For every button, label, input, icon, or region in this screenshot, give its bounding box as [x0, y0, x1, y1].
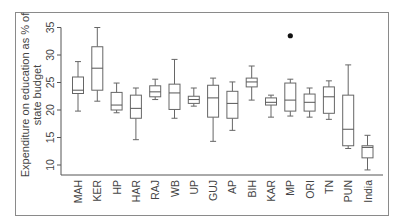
y-tick-label: 30 — [44, 49, 56, 61]
y-tick-label: 15 — [44, 132, 56, 144]
box-ap — [227, 82, 238, 130]
iqr-box — [343, 95, 354, 146]
x-category-label: AP — [226, 180, 238, 194]
x-axis: MAHKERHPHARRAJWBUPGUJAPBIHKARMPORITNPUNI… — [61, 175, 383, 203]
iqr-box — [246, 78, 257, 87]
iqr-box — [73, 77, 84, 94]
x-category-label: MAH — [72, 180, 84, 203]
x-category-label: RAJ — [149, 180, 161, 200]
box-plot-chart: Expenditure on education as % of state b… — [0, 0, 406, 223]
x-category-label: PUN — [342, 180, 354, 202]
y-axis-title-line-1: Expenditure on education as % of — [19, 12, 31, 177]
iqr-box — [227, 91, 238, 118]
outlier-point — [288, 33, 293, 38]
iqr-box — [130, 95, 141, 118]
y-tick-label: 20 — [44, 104, 56, 116]
x-category-label: HP — [111, 180, 123, 195]
box-tn — [323, 81, 334, 120]
iqr-box — [150, 86, 161, 97]
iqr-box — [323, 87, 334, 113]
y-axis-title-line-2: state budget — [31, 65, 43, 126]
box-har — [130, 88, 141, 140]
x-category-label: GUJ — [207, 180, 219, 201]
x-category-label: UP — [188, 180, 200, 195]
box-kar — [266, 95, 277, 117]
y-axis: 101520253035 — [44, 22, 61, 175]
box-series — [73, 28, 374, 170]
box-hp — [111, 83, 122, 113]
box-mah — [73, 62, 84, 112]
x-category-label: BIH — [246, 180, 258, 198]
box-pun — [343, 65, 354, 149]
y-tick-label: 35 — [44, 22, 56, 34]
box-wb — [169, 59, 180, 118]
x-category-label: KER — [91, 180, 103, 202]
box-ori — [304, 88, 315, 117]
box-mp — [285, 33, 296, 116]
iqr-box — [285, 83, 296, 111]
x-category-label: KAR — [265, 180, 277, 202]
box-bih — [246, 66, 257, 100]
x-category-label: ORI — [304, 180, 316, 199]
x-category-label: MP — [284, 180, 296, 196]
x-category-label: HAR — [130, 180, 142, 203]
box-ker — [92, 28, 103, 102]
iqr-box — [266, 98, 277, 105]
y-tick-label: 10 — [44, 159, 56, 171]
x-category-label: WB — [169, 180, 181, 197]
box-raj — [150, 79, 161, 99]
iqr-box — [208, 85, 219, 117]
y-axis-title: Expenditure on education as % of state b… — [19, 12, 43, 177]
x-category-label: TN — [323, 180, 335, 194]
y-tick-label: 25 — [44, 77, 56, 89]
iqr-box — [111, 92, 122, 110]
box-up — [188, 88, 199, 106]
iqr-box — [169, 84, 180, 109]
box-india — [362, 135, 373, 170]
box-guj — [208, 78, 219, 141]
x-category-label: India — [362, 180, 374, 203]
